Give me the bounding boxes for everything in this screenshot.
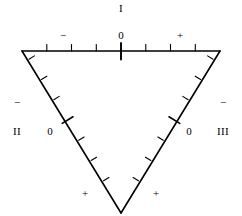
axis-iii-negative-label: −	[220, 97, 226, 108]
axis-ii-negative-label: −	[14, 97, 20, 108]
triangular-axis-diagram: I − 0 + II − 0 + III − 0 +	[0, 0, 242, 216]
axis-iii-positive-label: +	[153, 188, 159, 199]
axis-ii-positive-label: +	[82, 188, 88, 199]
axis-ii-zero-label: 0	[47, 126, 53, 137]
axis-i-positive-label: +	[177, 30, 183, 41]
axis-iii-line	[121, 51, 220, 213]
axis-ii-name-label: II	[13, 126, 21, 137]
axis-i-zero-label: 0	[118, 30, 124, 41]
axis-i-name-label: I	[119, 3, 123, 14]
axis-iii-name-label: III	[217, 126, 229, 137]
axis-iii-zero-label: 0	[186, 126, 192, 137]
axis-i-negative-label: −	[60, 30, 66, 41]
axis-ii-line	[22, 51, 121, 213]
